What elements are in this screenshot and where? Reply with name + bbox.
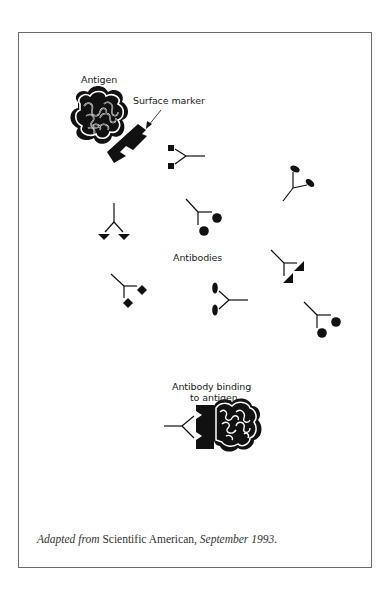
antigen-icon [71, 86, 129, 144]
antibody-circle-icon [304, 302, 341, 338]
antibody-antigen-diagram [0, 0, 392, 593]
arrow-icon [146, 110, 161, 129]
caption-prefix: Adapted from [37, 533, 100, 545]
antibody-ellipse-icon [283, 164, 316, 201]
surface-marker-label: Surface marker [133, 95, 205, 106]
antibody-triangle-icon [98, 203, 130, 240]
bound-antibody-icon [164, 416, 194, 438]
figure-caption: Adapted from Scientific American, Septem… [37, 533, 277, 545]
antibody-right-triangle-icon [271, 250, 304, 283]
bound-surface-marker-icon [196, 405, 214, 449]
binding-label-line2: to antigen [190, 392, 238, 403]
antibody-ellipse-icon [212, 283, 248, 316]
antibodies-label: Antibodies [173, 252, 222, 263]
antibody-diamond-icon [111, 274, 147, 308]
binding-label-line1: Antibody binding [172, 381, 251, 392]
antibody-square-icon [168, 145, 205, 169]
caption-source: Scientific American, [100, 533, 200, 545]
bound-antigen-icon [214, 399, 261, 452]
antigen-label: Antigen [81, 74, 117, 85]
caption-date: September 1993 [200, 533, 274, 545]
caption-suffix: . [274, 533, 277, 545]
antibody-circle-icon [186, 199, 222, 236]
